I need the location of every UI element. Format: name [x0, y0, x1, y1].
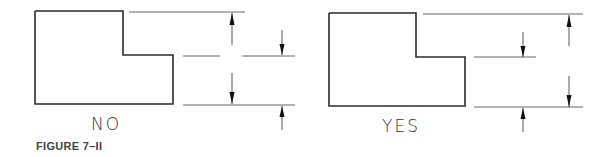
no-label: NO	[91, 114, 121, 134]
no-part-outline	[35, 11, 173, 104]
yes-step-arrow-up-icon	[521, 108, 526, 119]
no-step-arrow-down-icon	[280, 44, 285, 55]
yes-part-outline	[329, 13, 465, 106]
no-arrow-down-icon	[230, 92, 235, 104]
yes-panel	[329, 13, 583, 132]
yes-arrow-down-icon	[567, 95, 572, 107]
no-arrow-up-icon	[230, 13, 235, 25]
yes-arrow-up-icon	[567, 15, 572, 27]
yes-label: YES	[382, 116, 420, 136]
yes-step-arrow-down-icon	[521, 46, 526, 57]
no-step-arrow-up-icon	[280, 106, 285, 117]
figure-caption: FIGURE 7–II	[36, 140, 102, 152]
no-panel	[35, 11, 295, 130]
